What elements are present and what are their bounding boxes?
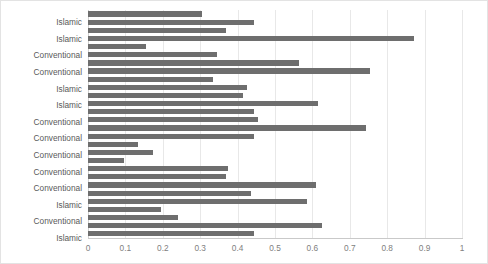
bar-row bbox=[88, 59, 462, 67]
y-axis-label-text: Islamic bbox=[56, 101, 82, 109]
bar bbox=[88, 93, 243, 98]
bar bbox=[88, 85, 247, 90]
x-tick-label: 0.9 bbox=[419, 241, 431, 255]
bar-row bbox=[88, 230, 462, 238]
y-axis-label: Islamic bbox=[1, 85, 86, 93]
bar-row bbox=[88, 189, 462, 197]
bar bbox=[88, 207, 161, 212]
bar bbox=[88, 231, 254, 236]
y-axis-label: Islamic bbox=[1, 18, 86, 26]
y-axis-label-text: Conventional bbox=[34, 217, 82, 225]
bar-row bbox=[88, 75, 462, 83]
y-axis-label: Conventional bbox=[1, 184, 86, 192]
y-axis-label-text: Islamic bbox=[56, 234, 82, 242]
bar bbox=[88, 11, 202, 16]
bar-row bbox=[88, 91, 462, 99]
bar bbox=[88, 182, 316, 187]
bar-row bbox=[88, 18, 462, 26]
bar bbox=[88, 134, 254, 139]
y-axis-label-text: Conventional bbox=[34, 118, 82, 126]
bar-row bbox=[88, 148, 462, 156]
bar bbox=[88, 20, 254, 25]
y-axis-label: Conventional bbox=[1, 68, 86, 76]
x-tick-label: 0.6 bbox=[307, 241, 319, 255]
y-axis-label: Conventional bbox=[1, 168, 86, 176]
bar bbox=[88, 158, 124, 163]
bar bbox=[88, 44, 146, 49]
y-axis-category-labels: Islamic Islamic Conventional Conventiona… bbox=[1, 10, 86, 238]
bar-row bbox=[88, 222, 462, 230]
bar bbox=[88, 101, 318, 106]
bar bbox=[88, 60, 299, 65]
bar bbox=[88, 68, 370, 73]
y-axis-label-text: Conventional bbox=[34, 168, 82, 176]
bar bbox=[88, 36, 414, 41]
bar-row bbox=[88, 100, 462, 108]
bar bbox=[88, 125, 366, 130]
bar-row bbox=[88, 214, 462, 222]
plot-area bbox=[88, 10, 462, 238]
bar bbox=[88, 109, 254, 114]
bar-row bbox=[88, 34, 462, 42]
bar-row bbox=[88, 157, 462, 165]
y-axis-label: Islamic bbox=[1, 35, 86, 43]
bar-row bbox=[88, 83, 462, 91]
bar bbox=[88, 77, 213, 82]
y-axis-label-text: Conventional bbox=[34, 134, 82, 142]
y-axis-label: Conventional bbox=[1, 217, 86, 225]
y-axis-label-text: Islamic bbox=[56, 201, 82, 209]
y-axis-label: Conventional bbox=[1, 151, 86, 159]
y-axis-label-text: Islamic bbox=[56, 35, 82, 43]
bar bbox=[88, 28, 226, 33]
bar-row bbox=[88, 140, 462, 148]
bar bbox=[88, 142, 138, 147]
bar-chart: Islamic Islamic Conventional Conventiona… bbox=[0, 0, 488, 264]
y-axis-label-text: Conventional bbox=[34, 184, 82, 192]
x-axis-tick-labels: 00.10.20.30.40.50.60.70.80.91 bbox=[88, 241, 462, 255]
x-axis-line bbox=[88, 238, 463, 239]
bar-row bbox=[88, 116, 462, 124]
x-tick-label: 0.7 bbox=[344, 241, 356, 255]
y-axis-label-text: Islamic bbox=[56, 18, 82, 26]
x-tick-label: 0 bbox=[86, 241, 91, 255]
bar bbox=[88, 215, 178, 220]
y-axis-label: Islamic bbox=[1, 234, 86, 242]
y-axis-label: Conventional bbox=[1, 51, 86, 59]
bar-row bbox=[88, 124, 462, 132]
bar-row bbox=[88, 108, 462, 116]
gridline-1 bbox=[462, 10, 463, 238]
bar bbox=[88, 223, 322, 228]
bar bbox=[88, 52, 217, 57]
y-axis-label-text: Islamic bbox=[56, 85, 82, 93]
chart-title bbox=[1, 1, 488, 8]
bar-row bbox=[88, 132, 462, 140]
bar-series bbox=[88, 10, 462, 238]
bar-row bbox=[88, 197, 462, 205]
bar-row bbox=[88, 205, 462, 213]
y-axis-label-text: Conventional bbox=[34, 51, 82, 59]
bar-row bbox=[88, 43, 462, 51]
bar-row bbox=[88, 26, 462, 34]
bar bbox=[88, 191, 251, 196]
bar bbox=[88, 150, 153, 155]
x-tick-label: 0.1 bbox=[120, 241, 132, 255]
y-axis-label: Conventional bbox=[1, 134, 86, 142]
bar-row bbox=[88, 165, 462, 173]
y-axis-label-text: Conventional bbox=[34, 68, 82, 76]
x-tick-label: 0.5 bbox=[269, 241, 281, 255]
x-tick-label: 0.2 bbox=[157, 241, 169, 255]
y-axis-label: Islamic bbox=[1, 101, 86, 109]
x-tick-label: 0.8 bbox=[381, 241, 393, 255]
x-tick-label: 0.4 bbox=[232, 241, 244, 255]
bar-row bbox=[88, 51, 462, 59]
bar-row bbox=[88, 181, 462, 189]
bar-row bbox=[88, 67, 462, 75]
bar bbox=[88, 174, 226, 179]
bar-row bbox=[88, 173, 462, 181]
y-axis-label-text: Conventional bbox=[34, 151, 82, 159]
x-tick-label: 1 bbox=[460, 241, 465, 255]
y-axis-label: Conventional bbox=[1, 118, 86, 126]
x-tick-label: 0.3 bbox=[194, 241, 206, 255]
bar bbox=[88, 117, 258, 122]
y-axis-label: Islamic bbox=[1, 201, 86, 209]
